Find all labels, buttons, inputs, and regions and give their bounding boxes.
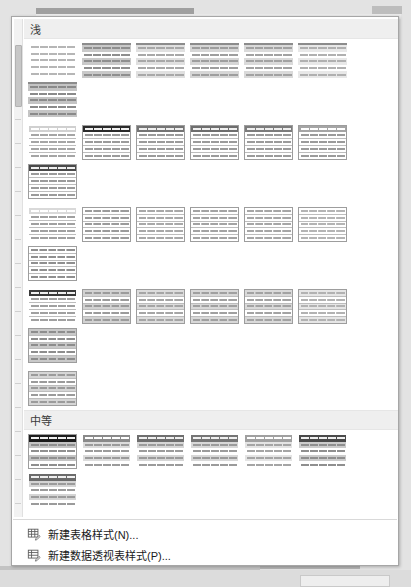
table-style-light-1[interactable] <box>82 43 131 78</box>
thumb-cell <box>219 319 227 321</box>
table-style-light-21[interactable] <box>28 289 77 324</box>
table-style-light-24[interactable] <box>190 289 239 324</box>
table-style-light-13[interactable] <box>28 164 77 199</box>
thumb-cell <box>247 437 255 439</box>
thumb-cell <box>94 134 102 136</box>
table-style-light-14[interactable] <box>28 207 77 242</box>
thumb-cell <box>229 457 237 459</box>
thumb-cell <box>336 299 344 301</box>
thumb-cell <box>66 262 74 264</box>
table-style-light-10[interactable] <box>190 125 239 160</box>
thumb-cell <box>39 256 47 258</box>
thumb-cell <box>219 237 227 239</box>
thumb-cell <box>40 73 48 75</box>
thumb-cell <box>166 128 174 130</box>
thumb-cell <box>273 217 281 219</box>
gallery-scrollbar[interactable] <box>14 19 23 517</box>
thumb-cell <box>310 128 318 130</box>
thumb-cell <box>48 381 56 383</box>
thumb-cell <box>58 503 66 505</box>
thumb-cell <box>139 134 147 136</box>
thumb-cell <box>156 319 164 321</box>
table-style-medium-12[interactable] <box>244 516 293 517</box>
table-style-medium-5[interactable] <box>244 434 293 469</box>
table-style-medium-1[interactable] <box>28 434 77 469</box>
table-style-medium-4[interactable] <box>190 434 239 469</box>
thumb-cell <box>84 54 92 56</box>
new-table-style[interactable]: 新建表格样式(N)... <box>13 523 397 544</box>
table-style-light-8[interactable] <box>82 125 131 160</box>
new-pivot-table-style[interactable]: 新建数据透视表样式(P)... <box>13 544 397 565</box>
table-style-light-18[interactable] <box>244 207 293 242</box>
thumb-cell <box>300 47 308 49</box>
table-style-light-27[interactable] <box>28 328 77 363</box>
thumb-cell <box>121 148 129 150</box>
thumb-cell <box>49 46 57 48</box>
thumb-cell <box>282 299 290 301</box>
thumb-cell <box>147 67 155 69</box>
thumb-cell <box>39 249 47 251</box>
thumb-row <box>29 386 76 393</box>
table-style-medium-3[interactable] <box>136 434 185 469</box>
thumb-cell <box>138 74 146 76</box>
thumb-cell <box>157 457 165 459</box>
table-style-light-6[interactable] <box>28 82 77 117</box>
table-style-medium-2[interactable] <box>82 434 131 469</box>
table-style-medium-10[interactable] <box>136 516 185 517</box>
thumb-cell <box>31 503 39 505</box>
table-style-medium-13[interactable] <box>298 516 347 517</box>
thumb-cell <box>256 444 264 446</box>
thumb-cell <box>337 450 345 452</box>
table-style-light-7[interactable] <box>28 125 77 160</box>
table-style-light-23[interactable] <box>136 289 185 324</box>
table-style-light-28[interactable] <box>28 371 77 406</box>
table-style-light-9[interactable] <box>136 125 185 160</box>
thumb-row <box>136 45 185 52</box>
table-style-light-16[interactable] <box>136 207 185 242</box>
thumb-cell <box>175 444 183 446</box>
thumb-cell <box>112 450 120 452</box>
table-style-medium-9[interactable] <box>82 516 131 517</box>
table-style-medium-11[interactable] <box>190 516 239 517</box>
table-style-light-26[interactable] <box>298 289 347 324</box>
table-style-medium-8[interactable] <box>28 516 77 517</box>
thumb-row <box>29 356 76 362</box>
table-style-light-20[interactable] <box>28 246 77 281</box>
table-style-light-17[interactable] <box>190 207 239 242</box>
thumb-cell <box>220 60 228 62</box>
table-style-light-4[interactable] <box>244 43 293 78</box>
thumb-cell <box>147 305 155 307</box>
thumb-cell <box>193 223 200 225</box>
thumb-row <box>299 435 346 442</box>
thumb-cell <box>31 483 39 485</box>
thumb-cell <box>211 450 219 452</box>
table-style-light-12[interactable] <box>298 125 347 160</box>
thumb-cell <box>283 457 291 459</box>
table-styles-gallery: 浅中等深 <box>24 19 398 517</box>
table-style-light-25[interactable] <box>244 289 293 324</box>
thumb-cell <box>40 53 48 55</box>
table-style-light-2[interactable] <box>136 43 185 78</box>
thumb-cell <box>147 47 155 49</box>
table-style-light-5[interactable] <box>298 43 347 78</box>
thumb-cell <box>112 141 120 143</box>
table-style-light-3[interactable] <box>190 43 239 78</box>
thumb-cell <box>328 74 336 76</box>
table-style-light-22[interactable] <box>82 289 131 324</box>
thumb-row <box>190 58 239 65</box>
thumb-cell <box>328 444 336 446</box>
table-style-light-11[interactable] <box>244 125 293 160</box>
command-label: 新建数据透视表样式(P)... <box>48 547 171 563</box>
thumb-row <box>191 297 238 304</box>
none-style[interactable] <box>28 43 77 78</box>
thumb-cell <box>139 292 146 294</box>
thumb-cell <box>31 374 38 376</box>
table-style-light-15[interactable] <box>82 207 131 242</box>
gallery-scrollbar-thumb[interactable] <box>15 45 22 107</box>
thumb-cell <box>67 319 75 321</box>
table-style-medium-7[interactable] <box>28 473 77 508</box>
table-style-medium-6[interactable] <box>298 434 347 469</box>
thumb-cell <box>328 464 336 466</box>
thumb-cell <box>58 99 66 101</box>
table-style-light-19[interactable] <box>298 207 347 242</box>
